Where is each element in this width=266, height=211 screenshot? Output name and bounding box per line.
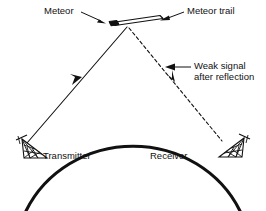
- meteor-trail-label-group: Meteor trail: [160, 5, 235, 21]
- weak-signal-label-line1: Weak signal: [194, 60, 246, 71]
- reflected-signal-ray: [129, 28, 222, 141]
- weak-signal-label-group: Weak signal after reflection: [165, 60, 254, 82]
- weak-signal-leader-arrowhead: [165, 64, 175, 71]
- weak-signal-label-line2: after reflection: [194, 71, 254, 82]
- receiver-antenna: [219, 134, 250, 157]
- reflected-ray-arrowhead: [165, 70, 175, 82]
- meteor-head: [109, 21, 119, 26]
- meteor-trail-shape: [112, 16, 163, 26]
- receiver-label: Receiver: [150, 150, 188, 161]
- meteor-label: Meteor: [44, 5, 74, 16]
- meteor-label-group: Meteor: [44, 5, 106, 24]
- transmitted-ray-arrowhead: [70, 74, 82, 85]
- transmitter-label: Transmitter: [43, 150, 91, 161]
- meteor-trail-label: Meteor trail: [187, 5, 235, 16]
- meteor-scatter-diagram: Meteor Meteor trail Weak signal after re…: [0, 0, 266, 211]
- transmitted-signal-ray: [27, 27, 127, 143]
- diagram-canvas: Meteor Meteor trail Weak signal after re…: [0, 0, 266, 211]
